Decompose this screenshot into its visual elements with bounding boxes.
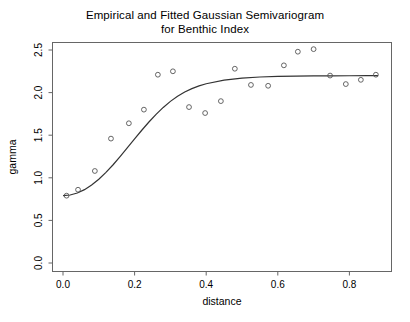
data-point (343, 82, 348, 87)
data-point (76, 187, 81, 192)
semivariogram-figure: Empirical and Fitted Gaussian Semivariog… (0, 0, 410, 322)
x-tick-label: 0.6 (271, 279, 285, 290)
data-point (92, 169, 97, 174)
data-point (142, 107, 147, 112)
data-point (126, 121, 131, 126)
y-axis-tick-labels: 0.00.51.01.52.02.5 (33, 43, 44, 270)
data-point (373, 72, 378, 77)
data-point (232, 66, 237, 71)
y-tick-label: 0.0 (33, 256, 44, 270)
data-group (63, 47, 378, 198)
x-tick-label: 0.0 (56, 279, 70, 290)
data-point (109, 136, 114, 141)
y-tick-label: 1.5 (33, 128, 44, 142)
data-point (155, 72, 160, 77)
data-point (358, 77, 363, 82)
y-tick-label: 1.0 (33, 170, 44, 184)
axes-group: 0.00.51.01.52.02.5 0.00.20.40.60.8 (33, 43, 392, 290)
data-point (266, 83, 271, 88)
x-axis-ticks (63, 272, 349, 276)
x-tick-label: 0.4 (199, 279, 213, 290)
data-point (281, 63, 286, 68)
empirical-points-group (64, 47, 378, 198)
plot-canvas: 0.00.51.01.52.02.5 0.00.20.40.60.8 dista… (0, 0, 410, 322)
fitted-gaussian-curve (63, 76, 378, 196)
data-point (311, 47, 316, 52)
x-tick-label: 0.8 (342, 279, 356, 290)
y-tick-label: 2.0 (33, 85, 44, 99)
plot-frame (53, 43, 392, 272)
y-axis-title: gamma (6, 139, 18, 174)
data-point (203, 111, 208, 116)
y-axis-ticks (49, 50, 53, 263)
data-point (218, 99, 223, 104)
y-tick-label: 2.5 (33, 43, 44, 57)
data-point (187, 105, 192, 110)
x-tick-label: 0.2 (128, 279, 142, 290)
x-axis-title: distance (202, 295, 241, 307)
data-point (295, 49, 300, 54)
x-axis-tick-labels: 0.00.20.40.60.8 (56, 279, 357, 290)
y-tick-label: 0.5 (33, 213, 44, 227)
data-point (249, 83, 254, 88)
data-point (171, 69, 176, 74)
